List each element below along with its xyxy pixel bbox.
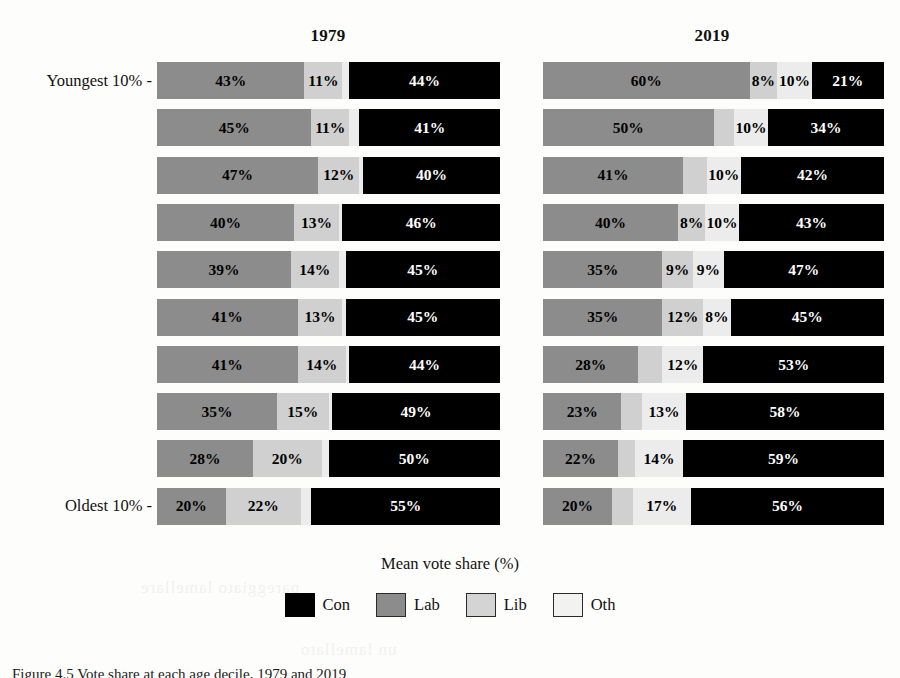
bar-segment-value: 21%: [832, 73, 863, 89]
figure-canvas: pareggiato lamellare un lamellato 1979 2…: [0, 0, 900, 678]
chart-panel-1979: 43%11%44%45%11%41%47%12%40%40%13%46%39%1…: [157, 0, 500, 678]
bar-segment-value: 8%: [705, 309, 728, 325]
bar-row: 41%14%44%: [157, 346, 500, 383]
bar-segment-value: 20%: [176, 498, 207, 514]
bar-segment-lib: 15%: [277, 393, 328, 430]
bar-segment-value: 35%: [587, 262, 618, 278]
bar-segment-value: 28%: [190, 451, 221, 467]
bar-segment-lab: 35%: [543, 251, 662, 288]
bar-segment-value: 45%: [407, 309, 438, 325]
bar-segment-lab: 41%: [157, 346, 298, 383]
bar-segment-lab: 40%: [543, 204, 678, 241]
bar-segment-value: 10%: [736, 120, 767, 136]
bar-segment-value: 44%: [409, 357, 440, 373]
bar-segment-value: 58%: [770, 404, 801, 420]
bar-segment-lib: 22%: [226, 488, 301, 525]
legend: ConLabLibOth: [0, 593, 900, 617]
bar-segment-lib: [618, 440, 635, 477]
bar-segment-con: 44%: [349, 62, 500, 99]
bar-segment-oth: [301, 488, 311, 525]
bar-segment-con: 58%: [686, 393, 884, 430]
bar-segment-con: 59%: [683, 440, 884, 477]
bar-segment-value: 10%: [779, 73, 810, 89]
bar-segment-lab: 50%: [543, 109, 714, 146]
figure-caption: Figure 4.5 Vote share at each age decile…: [12, 666, 346, 678]
bar-segment-value: 13%: [304, 309, 335, 325]
x-axis-title: Mean vote share (%): [0, 554, 900, 574]
legend-item-lib[interactable]: Lib: [466, 593, 527, 617]
bar-segment-value: 15%: [287, 404, 318, 420]
bar-segment-con: 40%: [363, 157, 500, 194]
bar-segment-lab: 28%: [543, 346, 638, 383]
bar-segment-lab: 60%: [543, 62, 750, 99]
bar-segment-lib: [638, 346, 662, 383]
bar-segment-value: 10%: [706, 215, 737, 231]
bar-segment-value: 41%: [597, 167, 628, 183]
bar-segment-con: 45%: [346, 251, 500, 288]
bar-segment-con: 49%: [332, 393, 500, 430]
bar-segment-value: 12%: [323, 167, 354, 183]
bar-segment-value: 10%: [708, 167, 739, 183]
legend-item-oth[interactable]: Oth: [553, 593, 616, 617]
bar-segment-value: 12%: [667, 357, 698, 373]
bar-row: 35%12%8%45%: [543, 299, 884, 336]
bar-segment-lib: [612, 488, 633, 525]
bar-segment-lab: 40%: [157, 204, 294, 241]
bar-segment-value: 50%: [399, 451, 430, 467]
bar-segment-value: 8%: [752, 73, 775, 89]
bar-segment-value: 12%: [667, 309, 698, 325]
bar-segment-value: 40%: [210, 215, 241, 231]
bar-segment-value: 13%: [301, 215, 332, 231]
bar-segment-value: 35%: [202, 404, 233, 420]
y-axis-label-oldest: Oldest 10% -: [65, 498, 152, 515]
bar-segment-value: 45%: [219, 120, 250, 136]
bar-row: 39%14%45%: [157, 251, 500, 288]
bar-segment-value: 9%: [697, 262, 720, 278]
legend-item-con[interactable]: Con: [285, 593, 351, 617]
bar-row: 20%22%55%: [157, 488, 500, 525]
bar-segment-value: 11%: [315, 120, 345, 136]
legend-label: Lib: [504, 595, 527, 615]
bar-segment-oth: [322, 440, 329, 477]
bar-segment-value: 42%: [797, 167, 828, 183]
bar-segment-oth: [349, 109, 359, 146]
bar-segment-oth: 10%: [777, 62, 811, 99]
bar-segment-lab: 39%: [157, 251, 291, 288]
bar-segment-oth: 10%: [707, 157, 741, 194]
bar-row: 45%11%41%: [157, 109, 500, 146]
bar-segment-value: 45%: [407, 262, 438, 278]
bar-segment-value: 22%: [565, 451, 596, 467]
bar-segment-value: 56%: [772, 498, 803, 514]
bar-segment-con: 43%: [739, 204, 884, 241]
bar-segment-lib: [714, 109, 734, 146]
bar-row: 23%13%58%: [543, 393, 884, 430]
legend-label: Lab: [414, 595, 440, 615]
bar-row: 47%12%40%: [157, 157, 500, 194]
legend-swatch-oth-icon: [553, 593, 583, 617]
bar-segment-value: 20%: [562, 498, 593, 514]
legend-swatch-lab-icon: [376, 593, 406, 617]
bar-segment-lab: 45%: [157, 109, 311, 146]
bar-segment-value: 43%: [215, 73, 246, 89]
bar-segment-oth: 8%: [703, 299, 730, 336]
bar-row: 28%20%50%: [157, 440, 500, 477]
bar-segment-con: 46%: [342, 204, 500, 241]
bar-segment-lib: 11%: [311, 109, 349, 146]
bar-segment-value: 44%: [409, 73, 440, 89]
bar-segment-con: 53%: [703, 346, 884, 383]
bar-segment-con: 50%: [329, 440, 501, 477]
bar-row: 40%8%10%43%: [543, 204, 884, 241]
bar-row: 35%9%9%47%: [543, 251, 884, 288]
bar-segment-value: 11%: [308, 73, 338, 89]
bar-row: 40%13%46%: [157, 204, 500, 241]
bar-segment-lab: 47%: [157, 157, 318, 194]
bar-segment-lab: 28%: [157, 440, 253, 477]
bar-segment-value: 53%: [778, 357, 809, 373]
bar-segment-con: 56%: [691, 488, 884, 525]
bar-segment-value: 14%: [643, 451, 674, 467]
bar-segment-value: 20%: [272, 451, 303, 467]
bar-segment-lab: 41%: [157, 299, 298, 336]
bar-segment-value: 39%: [208, 262, 239, 278]
bar-row: 35%15%49%: [157, 393, 500, 430]
legend-item-lab[interactable]: Lab: [376, 593, 440, 617]
